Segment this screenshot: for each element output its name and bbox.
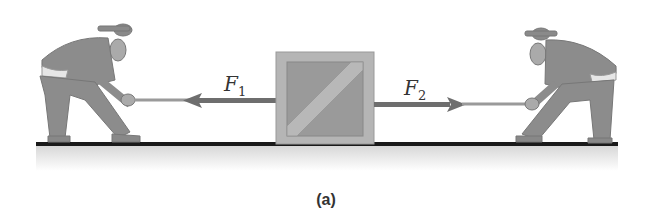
force-label-f2: F2 [404, 76, 426, 103]
crate [276, 52, 374, 144]
figure-caption: (a) [0, 191, 652, 209]
floor-shading [36, 145, 618, 171]
person-left [40, 24, 140, 142]
force-label-f1: F1 [224, 72, 246, 99]
person-right [516, 28, 616, 143]
force-diagram: F1 F2 (a) [0, 0, 652, 222]
